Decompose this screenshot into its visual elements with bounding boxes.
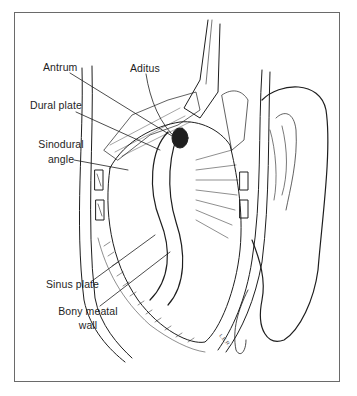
label-aditus: Aditus <box>130 62 160 74</box>
label-sinodural-angle-line1: Sinodural <box>34 138 88 150</box>
label-dural-plate: Dural plate <box>30 99 82 111</box>
label-sinus-plate: Sinus plate <box>46 278 99 290</box>
tissue-flap <box>104 91 248 160</box>
label-antrum: Antrum <box>43 61 77 73</box>
label-bony-meatal-wall: Bony meatal wall <box>55 305 121 331</box>
central-retractor <box>184 20 220 118</box>
pinna <box>235 87 328 354</box>
leader-bony-meatal-wall <box>100 252 170 306</box>
label-sinodural-angle-line2: angle <box>34 153 88 165</box>
label-bony-meatal-wall-line1: Bony meatal <box>55 305 121 317</box>
leader-dural-plate <box>76 112 160 150</box>
mastoid-illustration <box>0 0 357 396</box>
mastoid-cavity <box>108 122 241 343</box>
label-bony-meatal-wall-line2: wall <box>55 319 121 331</box>
label-sinodural-angle: Sinodural angle <box>34 138 88 165</box>
leader-lines <box>70 73 178 306</box>
